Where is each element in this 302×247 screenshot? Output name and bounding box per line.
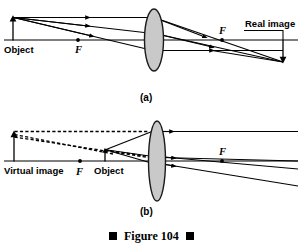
converging-lens-a [145, 9, 164, 71]
focal-label-left-b: F [75, 166, 83, 177]
figure-104-svg: Object F F Real image (a) [0, 0, 302, 247]
panel-label-b: (b) [140, 206, 153, 217]
real-image-leader-a [244, 31, 283, 41]
real-image-label-a: Real image [245, 18, 295, 29]
focal-label-right-a: F [218, 25, 226, 36]
focal-label-left-a: F [74, 44, 82, 55]
caption-bullet-left-icon [109, 232, 117, 240]
focal-dot-left-b [78, 159, 82, 163]
panel-b: Virtual image F Object F (b) [4, 121, 298, 217]
converging-lens-b [149, 121, 166, 201]
object-arrow-a [10, 15, 17, 40]
focal-dot-right-b [220, 159, 224, 163]
incident-rays-a [14, 18, 154, 51]
real-image-arrow-a [280, 40, 287, 64]
refracted-rays-b [160, 132, 298, 187]
object-label-b: Object [94, 165, 124, 176]
panel-a: Object F F Real image (a) [4, 9, 298, 103]
figure-container: Object F F Real image (a) [0, 0, 302, 247]
caption-bullet-right-icon [186, 232, 194, 240]
panel-label-a: (a) [140, 92, 152, 103]
caption-text: Figure 104 [124, 229, 179, 243]
focal-dot-right-a [220, 38, 224, 42]
focal-label-right-b: F [218, 146, 226, 157]
virtual-image-label-b: Virtual image [4, 165, 64, 176]
focal-dot-left-a [76, 38, 80, 42]
figure-caption: Figure 104 [109, 229, 194, 243]
incident-rays-b [106, 132, 154, 164]
object-label-a: Object [4, 44, 34, 55]
